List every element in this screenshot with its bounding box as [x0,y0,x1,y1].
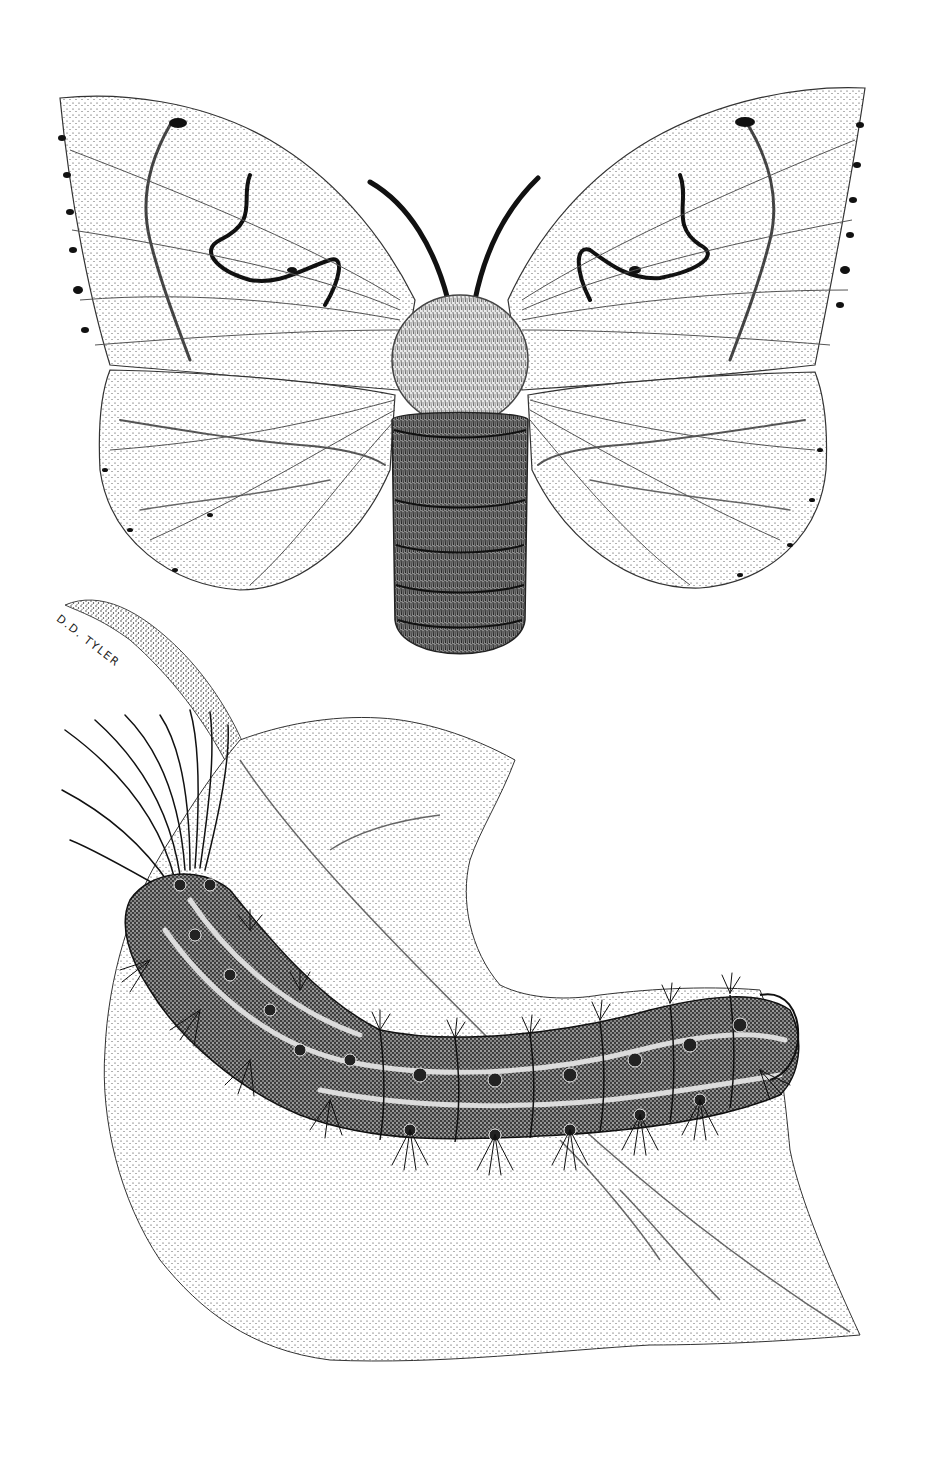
left-hindwing [99,370,395,590]
right-hindwing [528,372,827,588]
leaf-stem [65,600,250,770]
moth [58,88,865,654]
moth-abdomen [392,413,528,654]
left-forewing [60,96,415,390]
illustration-canvas: D.D. TYLER [0,0,926,1463]
right-forewing [508,88,865,390]
moth-thorax [392,295,528,425]
